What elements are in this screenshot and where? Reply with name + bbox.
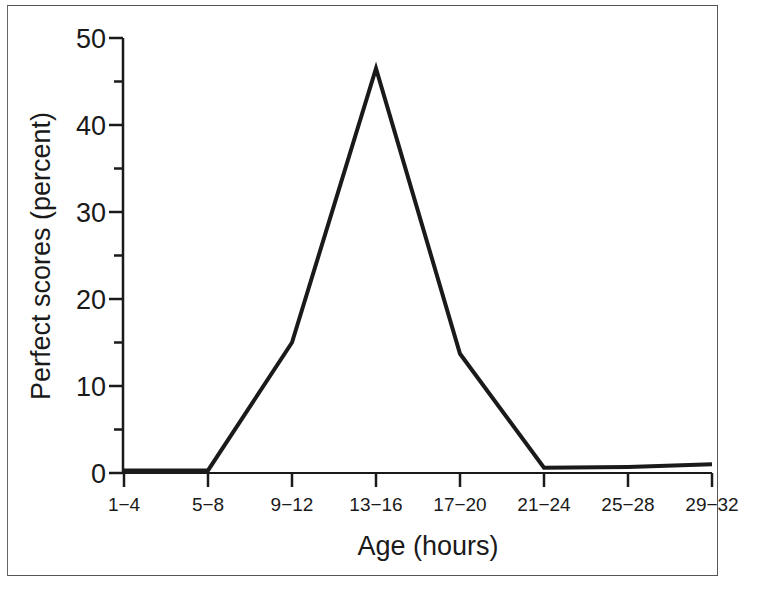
data-line [124,68,712,470]
x-tick-label: 5−8 [192,494,224,515]
y-axis: 01020304050 [76,24,123,489]
y-tick-label: 30 [76,198,106,228]
x-tick-label: 25−28 [601,494,654,515]
x-tick-label: 17−20 [433,494,486,515]
y-tick-label: 10 [76,372,106,402]
x-axis-label: Age (hours) [357,531,498,561]
y-tick-label: 50 [76,24,106,54]
x-tick-label: 21−24 [517,494,571,515]
x-tick-label: 9−12 [271,494,314,515]
x-tick-label: 1−4 [108,494,141,515]
x-axis: 1−45−89−1213−1617−2021−2425−2829−32 [108,473,739,515]
y-tick-label: 40 [76,111,106,141]
line-chart: 01020304050 1−45−89−1213−1617−2021−2425−… [0,0,761,589]
x-tick-label: 13−16 [349,494,402,515]
y-tick-label: 0 [91,459,106,489]
x-tick-label: 29−32 [685,494,738,515]
y-axis-label: Perfect scores (percent) [26,112,56,400]
y-tick-label: 20 [76,285,106,315]
